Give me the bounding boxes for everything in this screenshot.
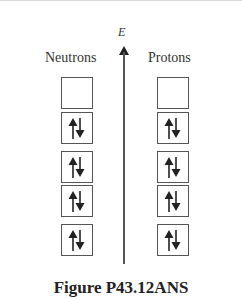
proton-level-4-paired <box>157 185 189 217</box>
spin-up-arrow-icon <box>165 118 174 139</box>
neutron-level-4-paired <box>61 185 93 217</box>
neutron-level-1-empty <box>61 77 93 109</box>
energy-axis <box>123 52 125 264</box>
neutron-level-5-paired <box>61 224 93 256</box>
spin-up-arrow-icon <box>69 118 78 139</box>
neutrons-label: Neutrons <box>45 50 96 66</box>
protons-label: Protons <box>148 50 191 66</box>
energy-axis-label: E <box>118 25 125 40</box>
spin-up-arrow-icon <box>165 157 174 178</box>
spin-up-arrow-icon <box>165 230 174 251</box>
spin-up-arrow-icon <box>69 157 78 178</box>
spin-up-arrow-icon <box>69 230 78 251</box>
neutron-level-2-paired <box>61 112 93 144</box>
spin-down-arrow-icon <box>172 118 181 138</box>
spin-up-arrow-icon <box>69 191 78 212</box>
spin-down-arrow-icon <box>76 157 85 177</box>
figure-caption: Figure P43.12ANS <box>0 278 242 298</box>
top-border <box>0 0 242 1</box>
figure: E Neutrons Protons Figure P43.12ANS <box>0 0 242 299</box>
neutron-level-3-paired <box>61 151 93 183</box>
spin-down-arrow-icon <box>172 157 181 177</box>
proton-level-1-empty <box>157 77 189 109</box>
proton-level-2-paired <box>157 112 189 144</box>
spin-down-arrow-icon <box>172 230 181 250</box>
spin-down-arrow-icon <box>76 191 85 211</box>
spin-down-arrow-icon <box>172 191 181 211</box>
spin-down-arrow-icon <box>76 230 85 250</box>
spin-up-arrow-icon <box>165 191 174 212</box>
spin-down-arrow-icon <box>76 118 85 138</box>
proton-level-5-paired <box>157 224 189 256</box>
proton-level-3-paired <box>157 151 189 183</box>
